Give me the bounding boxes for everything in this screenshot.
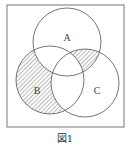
label-b: B (34, 85, 41, 96)
figure-caption: 図1 (57, 133, 73, 144)
venn-diagram: A B C 図1 (0, 0, 127, 145)
label-c: C (94, 85, 101, 96)
label-a: A (63, 32, 71, 43)
